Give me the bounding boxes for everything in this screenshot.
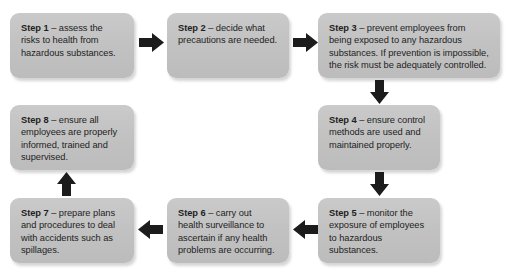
step-separator-step-1: – bbox=[49, 23, 59, 33]
step-box-step-3[interactable]: Step 3 – prevent employees from being ex… bbox=[318, 13, 500, 78]
arrow-step6-step7-left-icon bbox=[138, 220, 163, 239]
step-label-step-2: Step 2 bbox=[178, 23, 206, 33]
arrow-step1-step2-right-icon bbox=[139, 33, 164, 52]
flowchart-canvas: Step 1 – assess the risks to health from… bbox=[0, 0, 507, 280]
step-label-step-5: Step 5 bbox=[329, 208, 357, 218]
step-box-step-6[interactable]: Step 6 – carry out health surveillance t… bbox=[167, 198, 289, 263]
step-separator-step-4: – bbox=[357, 115, 367, 125]
step-label-step-4: Step 4 bbox=[329, 115, 357, 125]
step-label-step-8: Step 8 bbox=[21, 115, 49, 125]
step-box-step-2[interactable]: Step 2 – decide what precautions are nee… bbox=[167, 13, 289, 78]
step-separator-step-3: – bbox=[357, 23, 367, 33]
step-separator-step-2: – bbox=[206, 23, 216, 33]
step-box-step-8[interactable]: Step 8 – ensure all employees are proper… bbox=[10, 105, 134, 170]
step-label-step-3: Step 3 bbox=[329, 23, 357, 33]
step-separator-step-7: – bbox=[49, 208, 59, 218]
step-separator-step-5: – bbox=[357, 208, 367, 218]
arrow-step3-step4-down-icon bbox=[370, 80, 389, 104]
arrow-step4-step5-down-icon bbox=[370, 172, 389, 196]
step-box-step-7[interactable]: Step 7 – prepare plans and procedures to… bbox=[10, 198, 134, 263]
arrow-step2-step3-right-icon bbox=[293, 33, 318, 52]
step-box-step-1[interactable]: Step 1 – assess the risks to health from… bbox=[10, 13, 134, 78]
step-box-step-4[interactable]: Step 4 – ensure control methods are used… bbox=[318, 105, 440, 170]
step-separator-step-8: – bbox=[49, 115, 59, 125]
arrow-step7-step8-up-icon bbox=[57, 172, 76, 196]
step-label-step-7: Step 7 bbox=[21, 208, 49, 218]
step-label-step-6: Step 6 bbox=[178, 208, 206, 218]
step-separator-step-6: – bbox=[206, 208, 216, 218]
arrow-step5-step6-left-icon bbox=[293, 220, 318, 239]
step-box-step-5[interactable]: Step 5 – monitor the exposure of employe… bbox=[318, 198, 440, 263]
step-label-step-1: Step 1 bbox=[21, 23, 49, 33]
